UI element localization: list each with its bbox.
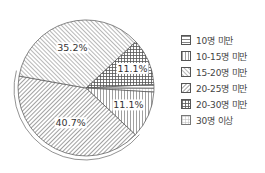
pattern-horizontal-icon: [181, 35, 191, 45]
slice-value-label: 40.7%: [56, 117, 86, 128]
legend-item-15-20: 15-20명 미만: [181, 64, 247, 80]
slice-value-label: 35.2%: [57, 42, 87, 53]
pie-slices: [18, 20, 154, 156]
pattern-crosshatch-icon: [181, 99, 191, 109]
legend-item-20-30: 20-30명 미만: [181, 96, 247, 112]
legend-label: 15-20명 미만: [196, 66, 247, 79]
legend-label: 20-30명 미만: [196, 98, 247, 111]
legend-item-30-plus: 30명 이상: [181, 112, 247, 128]
pattern-forward-diagonal-icon: [181, 67, 191, 77]
legend-label: 30명 이상: [196, 114, 233, 127]
legend-item-10-15: 10-15명 미만: [181, 48, 247, 64]
pattern-dotted-grid-icon: [181, 115, 191, 125]
pattern-vertical-icon: [181, 51, 191, 61]
slice-value-label: 11.1%: [113, 99, 143, 110]
legend-label: 10-15명 미만: [196, 50, 247, 63]
legend-label: 10명 미만: [196, 34, 233, 47]
slice-value-label: 11.1%: [117, 63, 147, 74]
legend-item-20-25: 20-25명 미만: [181, 80, 247, 96]
legend: 10명 미만 10-15명 미만 15-20명 미만 20-25명 미만 20-…: [181, 32, 247, 128]
pattern-backward-diagonal-icon: [181, 83, 191, 93]
legend-item-under-10: 10명 미만: [181, 32, 247, 48]
legend-label: 20-25명 미만: [196, 82, 247, 95]
